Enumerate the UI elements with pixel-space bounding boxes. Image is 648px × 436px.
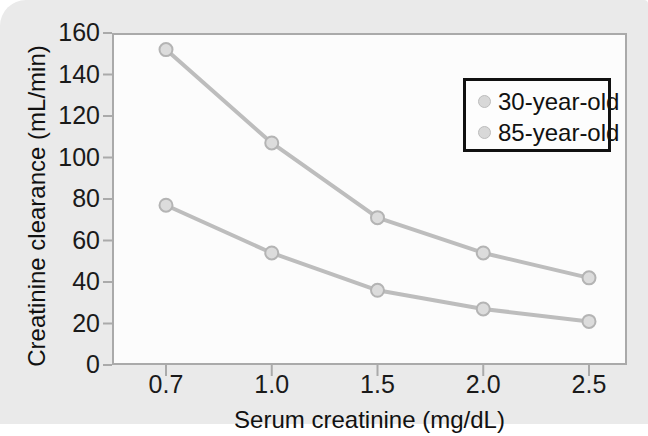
x-tick-label: 1.0	[254, 370, 289, 398]
x-tick-label: 0.7	[149, 370, 184, 398]
chart-legend: 30-year-old 85-year-old	[463, 78, 611, 152]
legend-marker-icon	[478, 126, 491, 139]
legend-item-30-year-old: 30-year-old	[478, 86, 608, 117]
x-tick-label: 1.5	[360, 370, 395, 398]
y-axis-title: Creatinine clearance (mL/min)	[23, 41, 51, 371]
legend-label: 30-year-old	[498, 90, 619, 114]
x-tick-label: 2.0	[466, 370, 501, 398]
x-axis-title: Serum creatinine (mg/dL)	[112, 406, 627, 434]
legend-label: 85-year-old	[498, 121, 619, 145]
legend-marker-icon	[478, 95, 491, 108]
legend-item-85-year-old: 85-year-old	[478, 117, 608, 148]
chart-figure: 020406080100120140160 0.71.01.52.02.5 Cr…	[0, 0, 648, 436]
x-tick-label: 2.5	[572, 370, 607, 398]
